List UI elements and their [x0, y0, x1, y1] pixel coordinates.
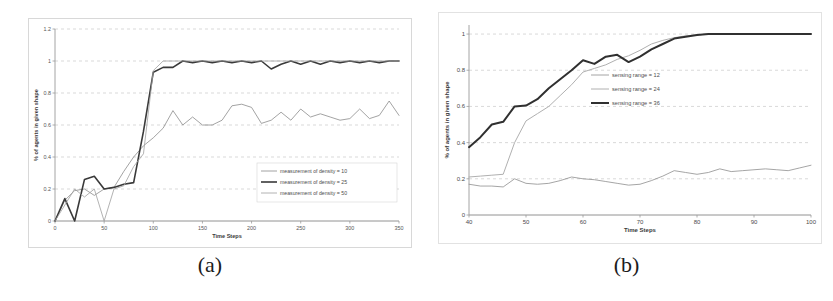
chart-a-plot: 00.20.40.60.811.2050100150200250300350Ti…	[29, 19, 409, 245]
chart-b: 00.20.40.60.81405060708090100Time Steps%…	[438, 12, 822, 244]
y-tick-label: 0	[48, 218, 51, 224]
x-tick-label: 80	[694, 219, 701, 225]
x-tick-label: 250	[296, 225, 305, 231]
y-tick-label: 0.6	[44, 122, 52, 128]
x-tick-label: 0	[54, 225, 57, 231]
x-tick-label: 100	[149, 225, 158, 231]
y-axis-title: % of agents in given shape	[33, 89, 39, 161]
y-tick-label: 0.8	[44, 90, 52, 96]
panel-a-caption: (a)	[0, 252, 420, 278]
x-tick-label: 70	[637, 219, 644, 225]
x-tick-label: 150	[198, 225, 207, 231]
legend-label: sensing range = 12	[612, 72, 660, 78]
chart-b-plot: 00.20.40.60.81405060708090100Time Steps%…	[439, 13, 819, 241]
figure-container: 00.20.40.60.811.2050100150200250300350Ti…	[0, 0, 833, 301]
legend-label: sensing range = 36	[612, 100, 660, 106]
x-tick-label: 100	[806, 219, 817, 225]
y-tick-label: 0.2	[44, 186, 52, 192]
y-tick-label: 0.2	[457, 176, 466, 182]
x-tick-label: 350	[395, 225, 404, 231]
series-line-sensing-range-12	[469, 165, 811, 187]
x-tick-label: 300	[345, 225, 354, 231]
y-tick-label: 1.2	[44, 26, 52, 32]
figure-panel-b: 00.20.40.60.81405060708090100Time Steps%…	[420, 0, 833, 301]
y-tick-label: 1	[462, 31, 466, 37]
legend-label: measurement of density = 50	[280, 190, 347, 196]
x-tick-label: 50	[101, 225, 107, 231]
chart-legend: sensing range = 12sensing range = 24sens…	[591, 72, 660, 106]
x-tick-label: 50	[523, 219, 530, 225]
series-line-measurement-of-density-10	[55, 101, 399, 221]
legend-label: sensing range = 24	[612, 86, 660, 92]
y-tick-label: 0.4	[44, 154, 52, 160]
y-tick-label: 1	[48, 58, 51, 64]
x-tick-label: 200	[247, 225, 256, 231]
x-tick-label: 40	[466, 219, 473, 225]
y-tick-label: 0.6	[457, 103, 466, 109]
chart-legend: measurement of density = 10measurement o…	[257, 163, 397, 202]
legend-label: measurement of density = 25	[280, 179, 347, 185]
x-tick-label: 60	[580, 219, 587, 225]
x-axis-title: Time Steps	[624, 227, 657, 233]
legend-label: measurement of density = 10	[280, 168, 347, 174]
y-tick-label: 0.4	[457, 140, 466, 146]
y-tick-label: 0	[462, 212, 466, 218]
x-axis-title: Time Steps	[212, 233, 242, 239]
y-tick-label: 0.8	[457, 67, 466, 73]
x-tick-label: 90	[751, 219, 758, 225]
chart-a: 00.20.40.60.811.2050100150200250300350Ti…	[28, 18, 412, 248]
y-axis-title: % of agents in given shape	[444, 81, 450, 159]
panel-b-caption: (b)	[420, 252, 833, 278]
figure-panel-a: 00.20.40.60.811.2050100150200250300350Ti…	[0, 0, 420, 301]
